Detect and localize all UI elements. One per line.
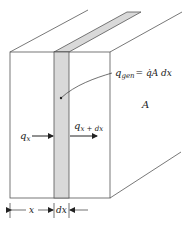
- q-x-plus-dx-label: qx + dx: [74, 120, 103, 133]
- area-label: A: [141, 99, 149, 110]
- dim-dx-label: dx: [56, 205, 67, 215]
- q-gen-label: qgen= q̇A dx: [115, 67, 172, 80]
- dim-x-label: x: [29, 205, 34, 215]
- q-gen-point: [60, 97, 62, 99]
- slab-element: [54, 52, 69, 198]
- q-x-label: qx: [20, 130, 30, 143]
- slab-diagram: qgen= q̇A dx A qx qx + dx x dx: [0, 0, 191, 227]
- wall-outline: [10, 10, 182, 198]
- slab-top-face: [54, 12, 141, 52]
- dimension-x: [10, 203, 88, 218]
